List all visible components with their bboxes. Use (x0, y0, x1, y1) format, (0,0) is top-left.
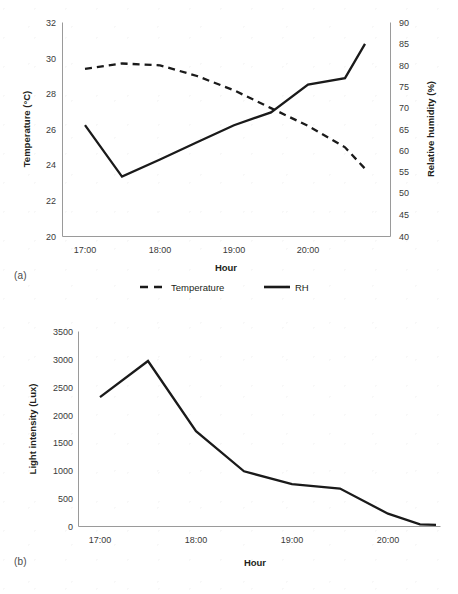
figure-b-xtick-1: 18:00 (185, 535, 208, 545)
legend-label-rh: RH (295, 282, 309, 293)
figure-a-series-temperature (85, 64, 365, 169)
figure-b-chart: 3500 3000 2500 2000 1500 1000 500 0 17:0… (0, 300, 458, 594)
figure-b-xaxis-title: Hour (244, 557, 266, 568)
figure-a-ytick-left-0: 32 (46, 18, 56, 28)
figure-a-ytick-left-4: 24 (46, 160, 56, 170)
figure-a-ytick-right-8: 50 (399, 188, 409, 198)
figure-a-xtick-3: 20:00 (297, 245, 320, 255)
figure-a-ytick-left-2: 28 (46, 89, 56, 99)
figure-b-xtick-2: 19:00 (281, 535, 304, 545)
figure-b-panel-label: (b) (14, 556, 27, 567)
figure-a-xtick-0: 17:00 (74, 245, 97, 255)
figure-a-ytick-left-6: 20 (46, 232, 56, 242)
figure-a-ytick-right-1: 85 (399, 39, 409, 49)
figure-b-ytick-3: 2000 (53, 411, 73, 421)
figure-a-ytick-left-1: 30 (46, 54, 56, 64)
figure-b-yaxis-title: Light intensity (Lux) (27, 384, 38, 475)
figure-a-xtick-1: 18:00 (149, 245, 172, 255)
figure-a-panel: 32 30 28 26 24 22 20 90 85 80 75 70 65 6… (0, 0, 458, 300)
figure-b-plot-frame (79, 332, 441, 527)
figure-b-ytick-5: 1000 (53, 466, 73, 476)
figure-a-ytick-left-3: 26 (46, 125, 56, 135)
figure-page: { "page": { "background": "#ffffff", "li… (0, 0, 458, 594)
figure-a-chart: 32 30 28 26 24 22 20 90 85 80 75 70 65 6… (0, 0, 458, 300)
figure-b-ytick-7: 0 (68, 522, 73, 532)
figure-b-ytick-1: 3000 (53, 355, 73, 365)
figure-a-ytick-right-3: 75 (399, 82, 409, 92)
figure-a-ytick-right-0: 90 (399, 18, 409, 28)
figure-b-panel: 3500 3000 2500 2000 1500 1000 500 0 17:0… (0, 300, 458, 594)
figure-b-xtick-0: 17:00 (89, 535, 112, 545)
figure-a-legend: Temperature RH (140, 282, 309, 293)
figure-a-ytick-right-5: 65 (399, 125, 409, 135)
figure-a-yaxis-left-title: Temperature (°C) (21, 91, 32, 167)
figure-a-ytick-right-2: 80 (399, 61, 409, 71)
figure-b-ytick-2: 2500 (53, 383, 73, 393)
figure-b-xtick-3: 20:00 (377, 535, 400, 545)
figure-b-series-light-intensity (100, 361, 436, 525)
figure-a-yaxis-right-title: Relative humidity (%) (425, 81, 436, 177)
legend-label-temperature: Temperature (171, 282, 224, 293)
figure-a-ytick-left-5: 22 (46, 196, 56, 206)
figure-a-ytick-right-4: 70 (399, 103, 409, 113)
figure-a-ytick-right-7: 55 (399, 167, 409, 177)
figure-b-ytick-6: 500 (58, 494, 73, 504)
figure-b-ytick-4: 1500 (53, 438, 73, 448)
figure-a-xtick-2: 19:00 (223, 245, 246, 255)
figure-a-ytick-right-6: 60 (399, 146, 409, 156)
figure-a-ytick-right-9: 45 (399, 210, 409, 220)
figure-a-panel-label: (a) (14, 270, 27, 281)
figure-b-ytick-0: 3500 (53, 327, 73, 337)
figure-a-xaxis-title: Hour (215, 262, 237, 273)
figure-a-ytick-right-10: 40 (399, 232, 409, 242)
